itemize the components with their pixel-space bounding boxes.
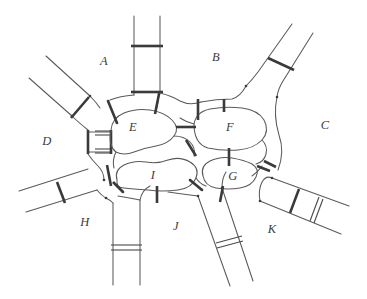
channel-A-B-north xyxy=(131,16,163,95)
gate-A-E xyxy=(108,101,117,123)
region-label-F: F xyxy=(225,120,234,134)
region-label-I: I xyxy=(150,168,156,182)
channel-A-D-northwest xyxy=(29,56,90,118)
region-label-C: C xyxy=(321,118,330,132)
channel-D-E-west xyxy=(88,130,111,154)
diagram-canvas: A B C D E F G H I J K xyxy=(0,0,367,299)
region-label-E: E xyxy=(128,120,137,134)
channel-H-J-south xyxy=(111,200,142,285)
region-map-svg: A B C D E F G H I J K xyxy=(0,0,367,299)
channel-J-K-southeast xyxy=(198,188,253,286)
junction-nodes xyxy=(71,85,279,203)
channel-B-C-northeast xyxy=(246,24,313,97)
region-label-D: D xyxy=(41,134,51,148)
region-label-H: H xyxy=(79,215,90,229)
gate-E-H xyxy=(107,165,111,186)
gate-H-I xyxy=(113,182,123,192)
region-label-B: B xyxy=(212,50,220,64)
core-wall-network xyxy=(72,86,282,203)
region-labels: A B C D E F G H I J K xyxy=(41,50,329,236)
region-label-K: K xyxy=(267,222,277,236)
channel-D-H-southwest xyxy=(19,169,97,212)
region-E-outline xyxy=(110,109,176,154)
region-label-G: G xyxy=(228,169,237,183)
region-label-A: A xyxy=(99,54,108,68)
gate-G-C xyxy=(264,161,276,167)
region-label-J: J xyxy=(173,219,180,233)
gate-I-G xyxy=(190,180,202,190)
